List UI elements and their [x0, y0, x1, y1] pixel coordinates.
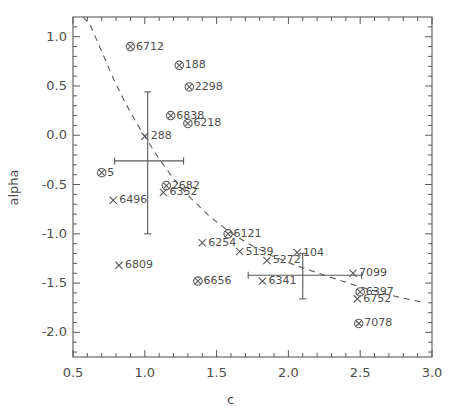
- marker-x-icon: [259, 278, 266, 285]
- plot-frame: [73, 17, 432, 357]
- y-tick-label: -2.0: [20, 324, 67, 339]
- marker-circle-x-icon: [175, 61, 183, 69]
- x-tick-label: 2.0: [271, 365, 305, 380]
- x-tick-label: 2.5: [343, 365, 377, 380]
- y-tick-label: 0.5: [20, 78, 67, 93]
- point-label: 7099: [359, 267, 387, 278]
- scatter-plot-figure: 6712188229868386218526826121665663977078…: [0, 0, 461, 418]
- marker-x-icon: [354, 295, 361, 302]
- marker-x-icon: [236, 248, 243, 255]
- marker-x-icon: [110, 197, 117, 204]
- y-axis-title: alpha: [6, 153, 21, 223]
- point-label: 6352: [169, 186, 197, 197]
- point-label: 6254: [208, 237, 236, 248]
- point-label: 2298: [195, 81, 223, 92]
- point-label: 7078: [364, 317, 392, 328]
- marker-circle-x-icon: [98, 169, 106, 177]
- point-label: 6656: [203, 275, 231, 286]
- marker-circle-x-icon: [166, 111, 174, 119]
- point-label: 188: [185, 59, 206, 70]
- point-label: 6218: [193, 117, 221, 128]
- y-tick-label: -1.0: [20, 226, 67, 241]
- point-label: 104: [303, 247, 324, 258]
- marker-x-icon: [160, 189, 167, 196]
- y-tick-label: -0.5: [20, 177, 67, 192]
- axis-ticks: [73, 17, 432, 357]
- marker-circle-x-icon: [185, 83, 193, 91]
- point-label: 288: [151, 130, 172, 141]
- marker-circle-x-icon: [355, 319, 363, 327]
- x-tick-label: 1.5: [200, 365, 234, 380]
- x-tick-label: 1.0: [128, 365, 162, 380]
- x-axis-title: c: [0, 392, 461, 407]
- point-label: 6809: [125, 259, 153, 270]
- marker-x-icon: [115, 262, 122, 269]
- y-tick-label: -1.5: [20, 275, 67, 290]
- marker-circle-x-icon: [126, 42, 134, 50]
- x-tick-label: 0.5: [56, 365, 90, 380]
- point-label: 5139: [246, 246, 274, 257]
- point-label: 5272: [273, 254, 301, 265]
- y-tick-label: 1.0: [20, 29, 67, 44]
- point-label: 6121: [234, 228, 262, 239]
- error-bar: [248, 254, 361, 299]
- point-label: 6712: [136, 41, 164, 52]
- point-label: 5: [107, 167, 114, 178]
- point-label: 6496: [119, 194, 147, 205]
- marker-circle-x-icon: [194, 277, 202, 285]
- y-tick-label: 0.0: [20, 127, 67, 142]
- point-label: 6341: [269, 275, 297, 286]
- x-tick-label: 3.0: [415, 365, 449, 380]
- plot-canvas: [0, 0, 461, 418]
- marker-x-icon: [263, 257, 270, 264]
- point-label: 6752: [363, 293, 391, 304]
- marker-x-icon: [199, 239, 206, 246]
